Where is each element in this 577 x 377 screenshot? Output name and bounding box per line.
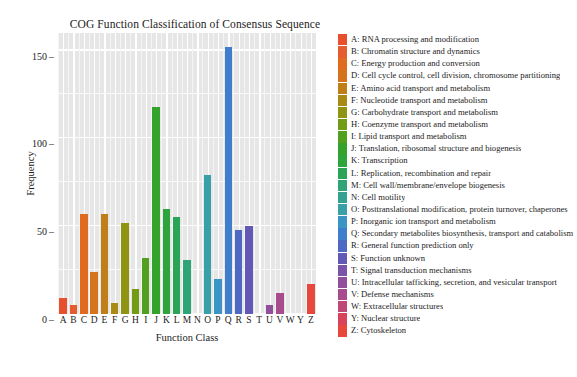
x-tick-J: J	[154, 315, 158, 325]
legend-label-Z: Z: Cytoskeleton	[351, 325, 406, 337]
legend-item-Z: Z: Cytoskeleton	[338, 325, 574, 337]
legend-label-W: W: Extracellular structures	[351, 301, 443, 313]
legend-label-C: C: Energy production and conversion	[351, 58, 480, 70]
legend-item-D: D: Cell cycle control, cell division, ch…	[338, 70, 574, 82]
bar-C	[80, 214, 87, 314]
legend-label-M: M: Cell wall/membrane/envelope biogenesi…	[351, 180, 505, 192]
legend-label-R: R: General function prediction only	[351, 240, 474, 252]
x-tick-I: I	[144, 315, 147, 325]
legend-swatch-D	[338, 70, 347, 81]
y-tick-mark: –	[49, 138, 54, 149]
legend-swatch-B	[338, 46, 347, 57]
legend-label-Q: Q: Secondary metabolites biosynthesis, t…	[351, 228, 573, 240]
legend-item-S: S: Function unknown	[338, 253, 574, 265]
y-tick-mark: –	[49, 226, 54, 237]
bar-E	[101, 214, 108, 314]
x-tick-V: V	[276, 315, 283, 325]
x-tick-S: S	[246, 315, 251, 325]
legend-label-D: D: Cell cycle control, cell division, ch…	[351, 70, 560, 82]
legend-label-S: S: Function unknown	[351, 253, 425, 265]
legend-item-A: A: RNA processing and modification	[338, 34, 574, 46]
bar-H	[132, 289, 139, 314]
bar-G	[121, 223, 128, 314]
legend-swatch-G	[338, 107, 347, 118]
legend-label-K: K: Transcription	[351, 155, 408, 167]
x-tick-K: K	[163, 315, 170, 325]
legend-item-G: G: Carbohydrate transport and metabolism	[338, 107, 574, 119]
bar-K	[163, 209, 170, 314]
legend-swatch-E	[338, 83, 347, 94]
legend-item-B: B: Chromatin structure and dynamics	[338, 46, 574, 58]
legend-item-V: V: Defense mechanisms	[338, 289, 574, 301]
legend-item-Y: Y: Nuclear structure	[338, 313, 574, 325]
y-tick-mark: –	[49, 314, 54, 325]
legend-item-I: I: Lipid transport and metabolism	[338, 131, 574, 143]
legend-item-C: C: Energy production and conversion	[338, 58, 574, 70]
legend-swatch-U	[338, 277, 347, 288]
legend-item-F: F: Nucleotide transport and metabolism	[338, 95, 574, 107]
x-tick-N: N	[194, 315, 201, 325]
y-tick-value: 100	[32, 138, 47, 149]
legend-item-J: J: Translation, ribosomal structure and …	[338, 143, 574, 155]
legend-swatch-M	[338, 180, 347, 191]
legend-swatch-Z	[338, 325, 347, 336]
legend-swatch-H	[338, 119, 347, 130]
legend-swatch-I	[338, 131, 347, 142]
legend-swatch-T	[338, 265, 347, 276]
legend-label-I: I: Lipid transport and metabolism	[351, 131, 467, 143]
legend: A: RNA processing and modificationB: Chr…	[338, 34, 574, 338]
y-axis: 0–50–100–150–	[0, 33, 58, 314]
legend-label-O: O: Posttranslational modification, prote…	[351, 204, 568, 216]
bar-D	[90, 272, 97, 314]
legend-item-E: E: Amino acid transport and metabolism	[338, 83, 574, 95]
bar-A	[59, 298, 66, 314]
x-tick-U: U	[266, 315, 273, 325]
x-axis: ABCDEFGHIJKLMNOPQRSTUVWYZ	[58, 315, 316, 331]
x-tick-D: D	[91, 315, 98, 325]
legend-item-U: U: Intracellular tafficking, secretion, …	[338, 277, 574, 289]
legend-swatch-P	[338, 216, 347, 227]
y-tick-mark: –	[49, 51, 54, 62]
bar-L	[173, 217, 180, 314]
legend-swatch-V	[338, 289, 347, 300]
legend-swatch-L	[338, 168, 347, 179]
x-tick-Q: Q	[225, 315, 232, 325]
y-tick-value: 50	[37, 226, 47, 237]
legend-label-T: T: Signal transduction mechanisms	[351, 265, 472, 277]
legend-label-H: H: Coenzyme transport and metabolism	[351, 119, 488, 131]
x-tick-M: M	[183, 315, 191, 325]
legend-label-B: B: Chromatin structure and dynamics	[351, 46, 480, 58]
chart-title: COG Function Classification of Consensus…	[56, 18, 334, 30]
x-tick-C: C	[81, 315, 87, 325]
bar-V	[276, 293, 283, 314]
x-tick-Z: Z	[308, 315, 314, 325]
legend-label-A: A: RNA processing and modification	[351, 34, 479, 46]
legend-item-K: K: Transcription	[338, 155, 574, 167]
legend-label-V: V: Defense mechanisms	[351, 289, 434, 301]
legend-swatch-S	[338, 253, 347, 264]
legend-label-E: E: Amino acid transport and metabolism	[351, 83, 490, 95]
legend-swatch-J	[338, 143, 347, 154]
y-tick-value: 150	[32, 51, 47, 62]
y-tick-value: 0	[42, 314, 47, 325]
legend-swatch-Y	[338, 313, 347, 324]
bar-S	[245, 226, 252, 314]
bar-B	[70, 305, 77, 314]
bar-O	[204, 175, 211, 314]
x-tick-F: F	[112, 315, 117, 325]
chart-figure: COG Function Classification of Consensus…	[0, 0, 577, 377]
bar-M	[183, 260, 190, 314]
legend-item-W: W: Extracellular structures	[338, 301, 574, 313]
bar-Q	[225, 47, 232, 314]
bar-I	[142, 258, 149, 314]
x-tick-L: L	[174, 315, 180, 325]
legend-label-N: N: Cell motility	[351, 192, 405, 204]
legend-label-U: U: Intracellular tafficking, secretion, …	[351, 277, 557, 289]
legend-swatch-R	[338, 240, 347, 251]
x-tick-Y: Y	[297, 315, 304, 325]
legend-item-H: H: Coenzyme transport and metabolism	[338, 119, 574, 131]
x-tick-W: W	[286, 315, 295, 325]
legend-label-Y: Y: Nuclear structure	[351, 313, 420, 325]
x-tick-R: R	[235, 315, 241, 325]
bar-F	[111, 303, 118, 314]
